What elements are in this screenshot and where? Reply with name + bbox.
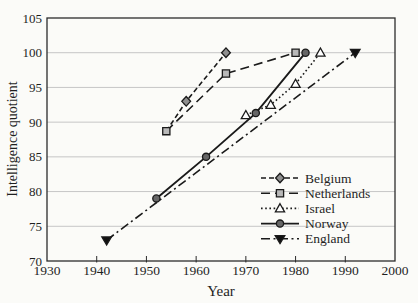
y-tick-label: 80	[29, 184, 42, 199]
legend-label-england: England	[305, 231, 350, 246]
y-axis-title: Intelligence quotient	[5, 81, 21, 196]
y-tick-label: 105	[23, 11, 43, 26]
x-tick-label: 2000	[382, 263, 409, 278]
y-tick-label: 90	[29, 115, 42, 130]
marker-england	[350, 50, 360, 58]
marker-belgium	[222, 48, 231, 58]
marker-norway	[302, 49, 309, 56]
x-tick-label: 1960	[183, 263, 210, 278]
series-line-israel	[246, 53, 321, 115]
marker-israel	[241, 111, 250, 119]
marker-netherlands	[163, 128, 170, 135]
legend-label-belgium: Belgium	[305, 171, 352, 186]
legend-marker-belgium	[276, 173, 285, 183]
y-tick-label: 70	[29, 254, 42, 269]
legend-label-norway: Norway	[305, 216, 349, 231]
x-tick-label: 1990	[332, 263, 359, 278]
legend-label-netherlands: Netherlands	[305, 186, 370, 201]
marker-netherlands	[292, 49, 299, 56]
y-tick-label: 85	[29, 149, 42, 164]
y-tick-label: 100	[23, 45, 43, 60]
marker-israel	[316, 48, 325, 56]
y-tick-label: 95	[29, 80, 42, 95]
series-line-netherlands	[166, 53, 295, 131]
y-tick-label: 75	[29, 219, 42, 234]
x-axis-title: Year	[207, 283, 235, 300]
legend-marker-norway	[276, 220, 283, 227]
x-tick-label: 1950	[133, 263, 160, 278]
x-tick-label: 1940	[83, 263, 110, 278]
x-tick-label: 1970	[232, 263, 259, 278]
marker-netherlands	[222, 70, 229, 77]
legend-marker-netherlands	[276, 190, 283, 197]
marker-israel	[266, 100, 275, 108]
marker-norway	[252, 110, 259, 117]
chart-canvas: 1930194019501960197019801990200070758085…	[0, 0, 418, 303]
marker-norway	[153, 195, 160, 202]
series-line-belgium	[166, 53, 226, 131]
x-tick-label: 1980	[282, 263, 309, 278]
marker-england	[102, 237, 112, 245]
marker-norway	[202, 153, 209, 160]
iq-flynn-effect-chart: 1930194019501960197019801990200070758085…	[0, 0, 418, 303]
legend-label-israel: Israel	[305, 201, 335, 216]
